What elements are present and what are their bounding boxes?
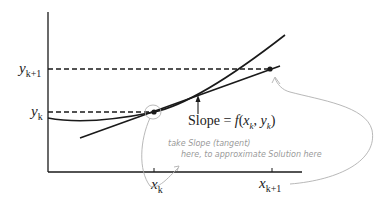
point-xk-yk xyxy=(151,109,156,114)
label-y-k: yk xyxy=(29,103,43,122)
label-x-k: xk xyxy=(150,176,163,195)
annotation-arrow-left xyxy=(142,118,178,187)
annotation-arrow-left-head-icon xyxy=(174,166,179,171)
annotation-line-1: take Slope (tangent) xyxy=(168,139,250,148)
label-x-k1: xk+1 xyxy=(258,175,281,194)
annotation-line-2: here, to approximate Solution here xyxy=(181,150,322,159)
slope-label: Slope = f(xk, yk) xyxy=(188,113,276,131)
point-xk1-yk1 xyxy=(267,66,272,71)
label-y-k1: yk+1 xyxy=(17,60,41,79)
annotation-arrow-right xyxy=(275,78,373,184)
euler-method-diagram: yk+1 yk xk xk+1 Slope = f(xk, yk) take S… xyxy=(0,0,392,201)
